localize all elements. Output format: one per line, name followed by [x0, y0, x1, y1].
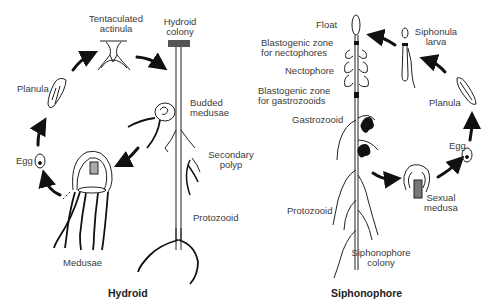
- medusae-tentacles: [54, 192, 108, 250]
- label-float: Float: [316, 20, 337, 30]
- label-secondary-polyp: Secondary polyp: [206, 150, 256, 170]
- budded-medusae-icon: [128, 103, 175, 148]
- hydroid-egg-icon: [35, 154, 45, 168]
- siphonophore-title: Siphonophore: [331, 287, 402, 299]
- label-budded-medusae: Budded medusae: [190, 98, 229, 118]
- label-nectophore: Nectophore: [285, 66, 334, 76]
- label-siphonula-larva: Siphonula larva: [412, 27, 460, 47]
- label-tentaculated-actinula: Tentaculated actinula: [88, 14, 144, 34]
- label-hydroid-egg: Egg: [16, 156, 33, 166]
- label-medusae: Medusae: [63, 258, 102, 268]
- label-blastogenic-zone-gastrozooids: Blastogenic zone for gastrozooids: [258, 86, 330, 106]
- label-siphonophore-egg: Egg: [449, 141, 466, 151]
- actinula-icon: [98, 41, 130, 70]
- hydroid-cycle-arrows: [38, 55, 160, 195]
- label-sexual-medusa: Sexual medusa: [421, 193, 461, 213]
- hydroid-colony-icon: [138, 40, 200, 284]
- label-siphonophore-protozooid: Protozooid: [287, 206, 332, 216]
- label-hydroid-colony: Hydroid colony: [160, 17, 200, 37]
- label-siphonophore-planula: Planula: [429, 98, 461, 108]
- hydroid-title: Hydroid: [108, 287, 148, 299]
- siphonophore-colony-icon: [345, 15, 369, 270]
- label-hydroid-planula: Planula: [17, 84, 49, 94]
- hydroid-planula-icon: [48, 78, 66, 107]
- medusae-icon: [62, 151, 112, 200]
- label-siphonophore-colony: Siphonophore colony: [348, 248, 414, 268]
- label-blastogenic-zone-nectophores: Blastogenic zone for nectophores: [261, 38, 333, 58]
- label-hydroid-protozooid: Protozooid: [193, 213, 238, 223]
- gastrozooid-blobs: [357, 117, 373, 157]
- label-gastrozooid: Gastrozooid: [292, 115, 343, 125]
